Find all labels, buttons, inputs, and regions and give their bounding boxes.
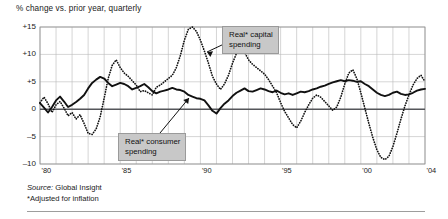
callout-consumer-spending: Real* consumer spending bbox=[118, 133, 186, 161]
x-tick-2004: '04 bbox=[427, 166, 437, 175]
callout-capital-line1: Real* capital bbox=[229, 30, 273, 40]
callout-consumer-line1: Real* consumer bbox=[125, 137, 180, 147]
y-tick--10: –10 bbox=[8, 159, 36, 168]
source-note: Source: Global Insight bbox=[27, 183, 102, 192]
y-tick--5: –5 bbox=[8, 132, 36, 141]
x-tick-1985: '85 bbox=[122, 166, 132, 175]
callout-capital-spending: Real* capital spending bbox=[222, 26, 279, 54]
chart-title: % change vs. prior year, quarterly bbox=[16, 4, 141, 13]
x-tick-1980: '80 bbox=[42, 166, 52, 175]
chart-figure: % change vs. prior year, quarterly –10–5… bbox=[0, 0, 448, 219]
y-tick-5: +5 bbox=[8, 77, 36, 86]
bottom-divider bbox=[27, 211, 425, 212]
y-tick-15: +15 bbox=[8, 22, 36, 31]
source-label: Source: bbox=[27, 183, 53, 192]
y-tick-10: +10 bbox=[8, 49, 36, 58]
x-tick-1995: '95 bbox=[282, 166, 292, 175]
x-tick-1990: '90 bbox=[202, 166, 212, 175]
callout-capital-line2: spending bbox=[229, 40, 273, 50]
source-value: Global Insight bbox=[53, 183, 102, 192]
callout-consumer-line2: spending bbox=[125, 147, 180, 157]
x-tick-2000: '00 bbox=[362, 166, 372, 175]
footnote: *Adjusted for inflation bbox=[27, 194, 99, 203]
y-tick-0: 0 bbox=[8, 104, 36, 113]
